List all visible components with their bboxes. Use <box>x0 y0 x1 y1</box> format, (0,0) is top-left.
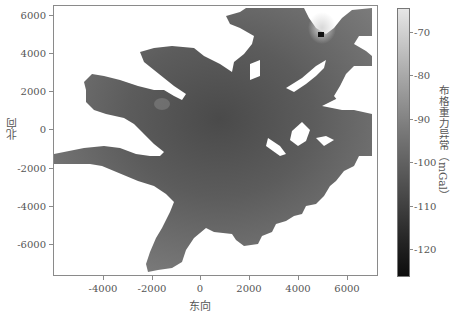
colorbar-tick-label: -110 <box>414 201 436 212</box>
y-tick-label: -2000 <box>0 163 46 174</box>
y-tick <box>49 244 53 245</box>
y-axis-title: 北向 <box>5 118 21 140</box>
colorbar-tick-label: -80 <box>414 70 430 81</box>
x-tick-label: -2000 <box>138 283 167 294</box>
colorbar-tick <box>410 162 413 163</box>
colorbar-tick <box>410 32 413 33</box>
colorbar-tick-label: -70 <box>414 27 430 38</box>
x-tick <box>249 276 250 280</box>
x-tick-label: 2000 <box>236 283 261 294</box>
x-tick <box>200 276 201 280</box>
colorbar <box>397 8 410 277</box>
colorbar-tick <box>410 75 413 76</box>
y-tick <box>49 168 53 169</box>
x-tick-label: 6000 <box>334 283 359 294</box>
colorbar-tick-label: -90 <box>414 114 430 125</box>
y-tick-label: 4000 <box>0 48 46 59</box>
x-axis-title: 东向 <box>189 297 211 313</box>
gravity-anomaly-heatmap <box>54 6 377 275</box>
y-tick <box>49 91 53 92</box>
x-tick <box>347 276 348 280</box>
x-tick <box>152 276 153 280</box>
x-tick-label: 4000 <box>285 283 310 294</box>
colorbar-tick <box>410 249 413 250</box>
y-tick-label: -6000 <box>0 239 46 250</box>
y-tick-label: 6000 <box>0 10 46 21</box>
x-tick <box>298 276 299 280</box>
y-tick <box>49 206 53 207</box>
y-tick <box>49 15 53 16</box>
x-tick <box>103 276 104 280</box>
y-tick-label: -4000 <box>0 201 46 212</box>
y-tick <box>49 53 53 54</box>
colorbar-tick-label: -100 <box>414 157 436 168</box>
colorbar-tick <box>410 206 413 207</box>
x-tick-label: 0 <box>197 283 203 294</box>
colorbar-title: 布格重力异常（mGal） <box>436 85 451 201</box>
plot-area <box>53 5 378 276</box>
colorbar-tick-label: -120 <box>414 244 436 255</box>
x-tick-label: -4000 <box>89 283 118 294</box>
y-tick-label: 2000 <box>0 86 46 97</box>
y-tick <box>49 129 53 130</box>
colorbar-tick <box>410 119 413 120</box>
